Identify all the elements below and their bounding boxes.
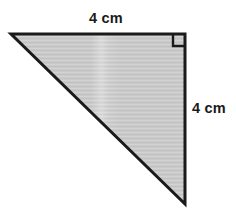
geometry-figure: 4 cm 4 cm xyxy=(0,0,236,221)
dimension-label-top: 4 cm xyxy=(0,11,212,26)
dimension-label-right: 4 cm xyxy=(192,101,226,116)
